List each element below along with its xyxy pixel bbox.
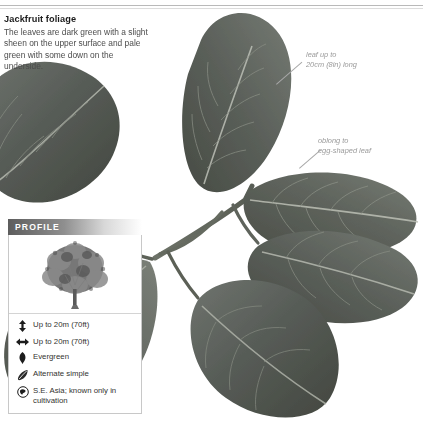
profile-row-origin: S.E. Asia; known only in cultivation [9, 383, 141, 408]
leaf-arrangement-icon [15, 369, 30, 381]
leaf-size-callout: leaf up to 20cm (8in) long [306, 50, 357, 69]
profile-row-foliage-type-text: Evergreen [30, 352, 69, 362]
profile-row-spread: Up to 20m (70ft) [9, 334, 141, 349]
caption-body: The leaves are dark green with a slight … [4, 27, 150, 73]
spread-arrow-icon [15, 337, 30, 347]
origin-globe-icon [15, 386, 30, 398]
caption-block: Jackfruit foliage The leaves are dark gr… [4, 13, 150, 73]
height-arrow-icon [15, 320, 30, 332]
profile-body: Up to 20m (70ft) Up to 20m (70ft) [8, 235, 142, 414]
tree-habit-image [9, 235, 141, 314]
profile-attribute-rows: Up to 20m (70ft) Up to 20m (70ft) [9, 314, 141, 413]
profile-panel: PROFILE [8, 219, 142, 414]
profile-row-leaf-arrangement-text: Alternate simple [30, 369, 89, 379]
profile-row-height: Up to 20m (70ft) [9, 317, 141, 334]
profile-header: PROFILE [8, 219, 142, 235]
caption-title: Jackfruit foliage [4, 13, 150, 25]
evergreen-leaf-icon [15, 352, 30, 364]
profile-row-foliage-type: Evergreen [9, 349, 141, 366]
profile-header-label: PROFILE [15, 222, 60, 232]
profile-row-leaf-arrangement: Alternate simple [9, 366, 141, 383]
tree-silhouette-icon [9, 235, 141, 313]
profile-row-height-text: Up to 20m (70ft) [30, 320, 89, 330]
profile-row-origin-text: S.E. Asia; known only in cultivation [30, 386, 137, 406]
profile-row-spread-text: Up to 20m (70ft) [30, 337, 89, 347]
leaf-shape-callout: oblong to egg-shaped leaf [318, 136, 371, 155]
jackfruit-foliage-page: Jackfruit foliage The leaves are dark gr… [0, 0, 423, 422]
